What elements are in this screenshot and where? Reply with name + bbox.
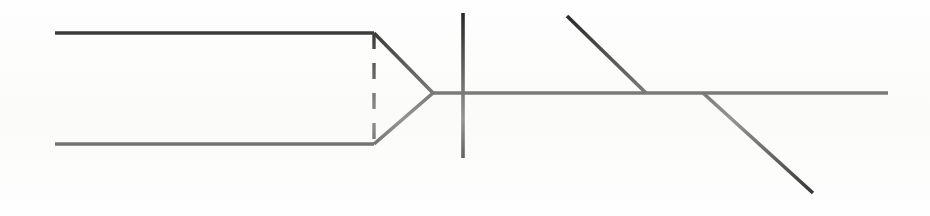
schematic-diagram [0, 0, 930, 216]
figure-canvas [0, 0, 930, 216]
